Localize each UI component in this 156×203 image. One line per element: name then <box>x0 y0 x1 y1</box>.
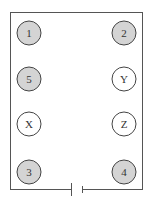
bulb-1: 1 <box>17 21 41 45</box>
bulb-z: Z <box>112 112 136 136</box>
battery-icon <box>72 183 83 196</box>
bulb-label: Z <box>121 118 128 130</box>
bulb-label: 3 <box>26 166 32 178</box>
bulb-label: 5 <box>26 73 32 85</box>
bulb-label: 2 <box>121 27 127 39</box>
circuit-diagram: 125YXZ34 <box>0 0 156 203</box>
bulb-label: 1 <box>26 27 32 39</box>
bulb-y: Y <box>112 67 136 91</box>
bulb-label: Y <box>120 73 128 85</box>
bulb-2: 2 <box>112 21 136 45</box>
bulb-5: 5 <box>17 67 41 91</box>
bulb-label: X <box>25 118 33 130</box>
bulb-3: 3 <box>17 160 41 184</box>
bulb-4: 4 <box>112 160 136 184</box>
bulb-x: X <box>17 112 41 136</box>
bulb-label: 4 <box>121 166 127 178</box>
